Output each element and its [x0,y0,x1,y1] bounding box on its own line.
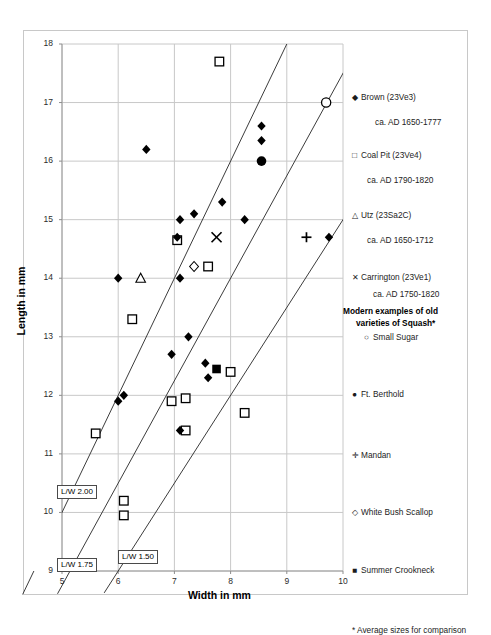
data-point-open-diamond [190,262,199,272]
data-points [91,57,333,519]
x-tick-label: 6 [107,576,129,586]
y-tick-label: 14 [31,272,53,282]
y-tick-label: 11 [31,448,53,458]
legend-modern-entry: ●Ft. Berthold [352,389,404,399]
data-point-filled-diamond [114,397,122,406]
legend-entry: △Utz (23Sa2C) [352,210,411,220]
legend-entry: ca. AD 1750-1820 [364,289,439,299]
data-point-filled-diamond [176,274,184,283]
data-point-filled-diamond [184,332,192,341]
data-point-filled-diamond [176,215,184,224]
data-point-open-square [204,262,213,271]
data-point-filled-diamond [142,145,150,154]
y-axis-title: Length in mm [15,256,27,346]
legend-modern-entry: ◇White Bush Scallop [352,507,433,517]
x-tick-label: 10 [332,576,354,586]
data-point-filled-diamond [204,373,212,382]
data-point-open-square [226,368,235,377]
y-tick-label: 16 [31,155,53,165]
legend-modern-entry-label: Mandan [361,450,391,460]
legend-entry-label: Coal Pit (23Ve4) [361,150,421,160]
legend-modern-entry: ■Summer Crookneck [352,565,434,575]
y-tick-label: 9 [31,565,53,575]
legend-modern-entry: ○Small Sugar [364,332,418,342]
data-point-filled-diamond [257,136,265,145]
open-circle-icon: ○ [364,332,373,342]
y-tick-label: 17 [31,97,53,107]
data-point-filled-diamond [201,359,209,368]
data-point-filled-diamond [218,198,226,207]
data-point-open-square [167,397,176,406]
data-point-open-square [240,409,249,418]
cross-x-icon: ✕ [352,272,361,282]
lw-ratio-label: L/W 2.00 [57,485,97,499]
axis-ticks [59,44,343,574]
x-tick-label: 7 [163,576,185,586]
data-point-filled-diamond [257,121,265,130]
legend-entry: ca. AD 1650-1777 [366,117,441,127]
filled-circle-icon: ● [352,389,361,399]
legend-entry: ca. AD 1790-1820 [358,175,433,185]
data-point-open-square [120,496,129,505]
x-axis-title: Width in mm [188,589,251,601]
legend-modern-heading-line2: varieties of Squash* [356,318,435,328]
data-point-filled-diamond [114,274,122,283]
legend-modern-entry-label: Small Sugar [373,332,418,342]
data-point-filled-diamond [120,391,128,400]
y-tick-label: 15 [31,214,53,224]
legend-modern-entry: ✛Mandan [352,450,391,460]
plus-icon: ✛ [352,450,361,460]
lw-ratio-label: L/W 1.75 [57,558,97,572]
legend-modern-heading-line1: Modern examples of old [343,306,438,316]
y-tick-label: 13 [31,331,53,341]
open-square-icon: □ [352,150,361,160]
legend-entry-label: ca. AD 1650-1712 [367,235,433,245]
y-tick-label: 18 [31,38,53,48]
data-point-filled-diamond [240,215,248,224]
data-point-filled-diamond [325,233,333,242]
legend-entry-label: ca. AD 1650-1777 [375,117,441,127]
legend-entry: ◆Brown (23Ve3) [352,92,416,102]
filled-diamond-icon: ◆ [352,92,361,102]
data-point-open-circle [322,98,331,107]
legend-modern-entry-label: Ft. Berthold [361,389,404,399]
data-point-cross-x [212,232,222,242]
legend-entry: ca. AD 1650-1712 [358,235,433,245]
data-point-open-square [91,429,100,438]
legend-entry-label: Carrington (23Ve1) [361,272,431,282]
legend-modern-entry-label: Summer Crookneck [361,565,434,575]
data-point-filled-square [212,365,221,374]
filled-square-icon: ■ [352,565,361,575]
legend-entry-label: ca. AD 1790-1820 [367,175,433,185]
data-point-open-square [215,57,224,66]
legend-entry: ✕Carrington (23Ve1) [352,272,431,282]
data-point-open-square [128,315,137,324]
axis-lines [62,44,343,571]
legend-modern-entry-label: White Bush Scallop [361,507,433,517]
data-point-filled-diamond [190,209,198,218]
data-point-open-square [120,511,129,520]
x-tick-label: 8 [220,576,242,586]
legend-footnote: * Average sizes for comparison [352,625,466,635]
data-point-filled-circle [257,156,267,166]
open-triangle-icon: △ [352,210,361,220]
open-diamond-icon: ◇ [352,507,361,517]
legend-entry-label: ca. AD 1750-1820 [373,289,439,299]
legend-entry-label: Utz (23Sa2C) [361,210,411,220]
data-point-plus [301,232,311,242]
legend-entry-label: Brown (23Ve3) [361,92,416,102]
lw-ratio-label: L/W 1.50 [118,550,158,564]
data-point-open-square [181,394,190,403]
gridlines [62,44,343,571]
x-tick-label: 9 [276,576,298,586]
legend-entry: □Coal Pit (23Ve4) [352,150,421,160]
y-tick-label: 10 [31,506,53,516]
x-tick-label: 5 [51,576,73,586]
y-tick-label: 12 [31,389,53,399]
